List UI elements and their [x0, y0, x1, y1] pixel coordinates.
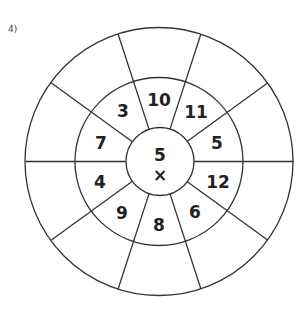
multiplication-wheel: 10 11 5 12 6 8 9 4 7 3 5 ×	[0, 0, 306, 314]
inner-segment-value: 11	[184, 102, 208, 122]
center-number: 5	[154, 145, 166, 165]
inner-segment-value: 12	[206, 172, 230, 192]
inner-segment-value: 3	[117, 101, 129, 121]
inner-segment-value: 7	[95, 133, 107, 153]
inner-segment-value: 9	[116, 203, 128, 223]
inner-segment-value: 6	[189, 202, 201, 222]
inner-segment-value: 8	[153, 215, 165, 235]
inner-segment-value: 4	[94, 172, 106, 192]
inner-segment-value: 10	[147, 90, 171, 110]
inner-segment-value: 5	[211, 133, 223, 153]
multiply-operator-icon: ×	[153, 165, 167, 185]
